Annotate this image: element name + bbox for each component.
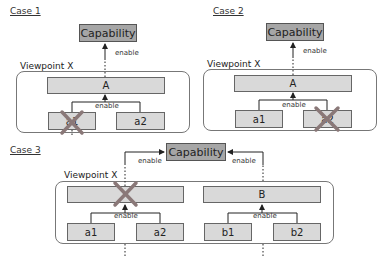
- case-2-parent-box: A: [234, 75, 352, 92]
- case-2-enable-lower: enable: [282, 101, 306, 109]
- case-3-label: Case 3: [10, 145, 41, 155]
- case-1-viewpoint-label: Viewpoint X: [20, 61, 73, 71]
- case-2-label: Case 2: [213, 6, 244, 16]
- case-3-child-a2: a2: [136, 223, 184, 241]
- case-1-parent-box: A: [47, 77, 165, 94]
- case-3-enable-left-lower: enable: [114, 212, 138, 220]
- case-1-child-a1: a1: [48, 112, 96, 130]
- case-3-parent-left-box: [67, 186, 184, 203]
- case-3-viewpoint-label: Viewpoint X: [64, 170, 117, 180]
- case-3-parent-b-box: B: [203, 186, 321, 203]
- case-3-enable-right-lower: enable: [253, 212, 277, 220]
- case-2-viewpoint-label: Viewpoint X: [207, 59, 260, 69]
- case-3-child-b1: b1: [204, 223, 252, 241]
- case-2-enable-upper: enable: [303, 47, 327, 55]
- case-1-child-a2: a2: [116, 112, 165, 130]
- case-1-capability-box: Capability: [79, 24, 137, 42]
- case-2-capability-box: Capability: [266, 23, 324, 41]
- case-3-child-b2: b2: [273, 223, 321, 241]
- case-3-enable-right-upper: enable: [232, 157, 256, 165]
- case-3-child-a1: a1: [67, 223, 115, 241]
- case-2-child-a2: a2: [303, 110, 352, 128]
- case-1-label: Case 1: [10, 6, 41, 16]
- case-2-child-a1: a1: [235, 110, 283, 128]
- case-3-capability-box: Capability: [166, 143, 226, 161]
- case-3-enable-left-upper: enable: [138, 157, 162, 165]
- case-1-enable-lower: enable: [95, 102, 119, 110]
- case-1-enable-upper: enable: [115, 49, 139, 57]
